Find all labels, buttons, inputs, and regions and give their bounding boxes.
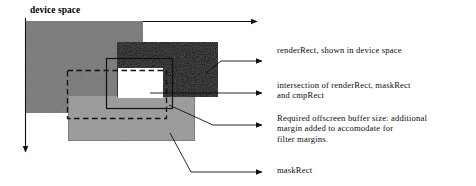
device-space-title: device space: [30, 5, 80, 15]
offscreen-buffer-label: Required offscreen buffer size: addition…: [277, 113, 427, 144]
render-rect-label: renderRect, shown in device space: [277, 45, 402, 55]
diagram-canvas: device space renderRect, shown in device…: [0, 0, 476, 186]
mask-rect-label: maskRect: [277, 165, 312, 175]
intersection-shape: [118, 68, 163, 98]
intersection-label: intersection of renderRect, maskRect and…: [277, 80, 411, 101]
